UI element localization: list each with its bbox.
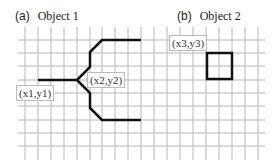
panel-a-letter: (a) bbox=[15, 9, 30, 23]
point-label-x3-y3: (x3,y3) bbox=[169, 35, 207, 51]
grid-diagram bbox=[0, 0, 277, 168]
point-label-x2-y2: (x2,y2) bbox=[87, 72, 125, 88]
grid bbox=[18, 27, 265, 160]
panel-b-label: (b)Object 2 bbox=[177, 9, 241, 24]
panel-b-title: Object 2 bbox=[200, 9, 241, 23]
panel-a-title: Object 1 bbox=[38, 9, 79, 23]
panel-a-label: (a)Object 1 bbox=[15, 9, 79, 24]
point-label-x1-y1: (x1,y1) bbox=[16, 85, 54, 101]
panel-b-letter: (b) bbox=[177, 9, 192, 23]
